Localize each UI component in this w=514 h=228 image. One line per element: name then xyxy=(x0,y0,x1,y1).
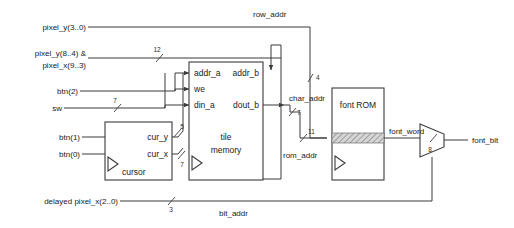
wire-row-addr xyxy=(88,27,327,138)
signal-label-font-word: font_word xyxy=(389,127,424,136)
bus-width-row-addr: 4 xyxy=(316,74,320,81)
wire-tile-memory-bottom-rail xyxy=(263,58,281,179)
signal-label-btn1: btn(1) xyxy=(59,133,80,142)
block-label-tile: tile xyxy=(221,132,232,142)
port-label-cur-x: cur_x xyxy=(147,149,169,159)
signal-label-rom-addr: rom_addr xyxy=(283,151,318,160)
signal-label-sw: sw xyxy=(52,104,62,113)
font-rom-selected-row-band xyxy=(332,133,384,143)
signal-label-pixel-x-9-3: pixel_x(9..3) xyxy=(42,61,86,70)
wire-btn2-to-we xyxy=(80,89,189,91)
bus-width-sw: 7 xyxy=(113,97,117,104)
block-label-cursor: cursor xyxy=(122,167,146,177)
block-label-font-rom: font ROM xyxy=(340,100,376,110)
signal-label-btn2: btn(2) xyxy=(57,87,78,96)
bus-width-cur-y: 5 xyxy=(180,123,184,130)
signal-label-row-addr: row_addr xyxy=(253,10,287,19)
bus-width-pixel-concat: 12 xyxy=(153,46,161,53)
circuit-diagram-svg: pixel_y(3..0) pixel_y(8..4) & pixel_x(9.… xyxy=(0,0,514,228)
wire-cur-x xyxy=(172,148,183,154)
signal-label-char-addr: char_addr xyxy=(289,94,325,103)
clock-triangle-icon xyxy=(192,156,202,170)
bus-width-cur-x: 7 xyxy=(180,161,184,168)
port-label-addr-b: addr_b xyxy=(233,68,260,78)
block-tile-memory[interactable] xyxy=(189,62,263,180)
signal-label-pixel-y-3-0: pixel_y(3..0) xyxy=(42,23,86,32)
port-label-dout-b: dout_b xyxy=(233,100,259,110)
wire-sw-to-din-a xyxy=(64,105,189,108)
port-label-addr-a: addr_a xyxy=(194,68,221,78)
bus-tick-cur-y-5 xyxy=(174,129,181,137)
bus-width-bit-addr: 3 xyxy=(169,206,173,213)
bus-tick-font-word-8 xyxy=(430,134,437,142)
port-label-cur-y: cur_y xyxy=(147,132,169,142)
bus-width-rom-addr: 11 xyxy=(308,128,315,135)
bus-width-char-addr: 7 xyxy=(297,109,301,116)
clock-triangle-icon xyxy=(108,157,118,171)
wire-pixel-concat-to-addr-b xyxy=(88,45,281,70)
signal-label-bit-addr: bit_addr xyxy=(219,209,248,218)
signal-label-font-bit: font_bit xyxy=(472,136,499,145)
block-label-memory: memory xyxy=(211,145,242,155)
signal-label-delayed-pixel-x: delayed pixel_x(2..0) xyxy=(44,197,118,206)
bus-width-font-word: 8 xyxy=(428,146,432,153)
signal-label-btn0: btn(0) xyxy=(59,150,80,159)
port-label-we: we xyxy=(193,84,205,94)
signal-label-pixel-y-8-4: pixel_y(8..4) & xyxy=(35,49,87,58)
wire-char-addr xyxy=(263,105,327,138)
diagram-canvas: pixel_y(3..0) pixel_y(8..4) & pixel_x(9.… xyxy=(0,0,514,228)
clock-triangle-icon xyxy=(335,156,345,170)
port-label-din-a: din_a xyxy=(194,100,215,110)
